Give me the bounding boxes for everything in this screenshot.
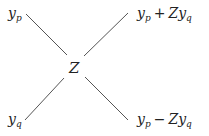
label-bottom-right: yp−Zyq xyxy=(137,111,192,127)
butterfly-diagram: yp yq Z yp+Zyq yp−Zyq xyxy=(0,0,209,136)
var-y: y xyxy=(137,5,145,21)
var-z: Z xyxy=(168,5,178,21)
center-label: Z xyxy=(69,60,79,76)
label-top-left: yp xyxy=(8,5,22,21)
var-y: y xyxy=(178,5,186,21)
subscript: p xyxy=(145,13,151,23)
label-top-right: yp+Zyq xyxy=(137,5,192,21)
line-bottom-right xyxy=(85,77,128,120)
var-y: y xyxy=(8,5,16,21)
var-y: y xyxy=(137,111,145,127)
subscript: q xyxy=(186,13,192,23)
subscript: p xyxy=(145,119,151,129)
minus-operator: − xyxy=(151,111,169,127)
var-y: y xyxy=(178,111,186,127)
label-bottom-left: yq xyxy=(8,111,22,127)
line-bottom-left xyxy=(25,78,64,120)
subscript: q xyxy=(16,119,22,129)
subscript: q xyxy=(186,119,192,129)
line-top-right xyxy=(84,13,128,56)
line-top-left xyxy=(26,14,67,55)
plus-operator: + xyxy=(151,5,169,21)
subscript: p xyxy=(16,13,22,23)
var-z: Z xyxy=(168,111,178,127)
var-y: y xyxy=(8,111,16,127)
